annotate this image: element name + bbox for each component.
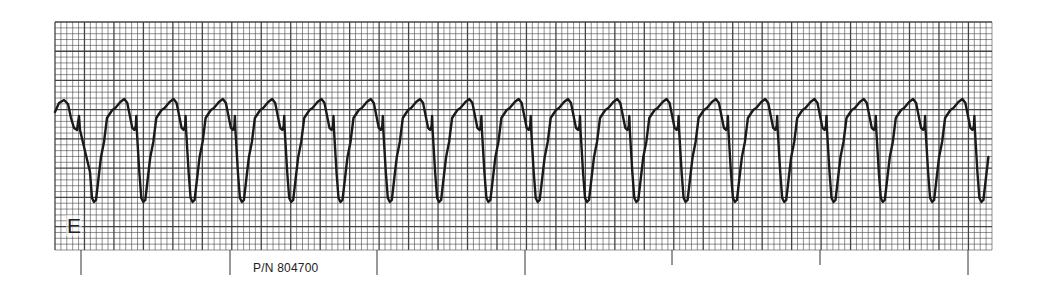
ecg-strip [0,0,1041,293]
part-number-label: P/N 804700 [253,261,318,275]
lead-label: E [66,215,82,236]
time-marks [81,250,968,275]
ecg-grid [55,22,992,250]
